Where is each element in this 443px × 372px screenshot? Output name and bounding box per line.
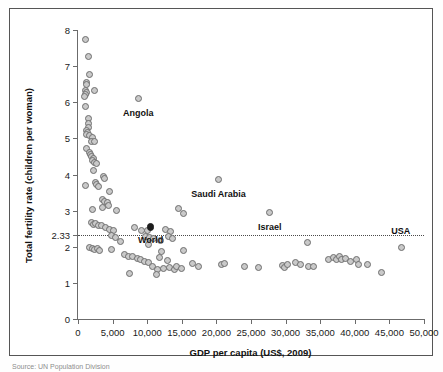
x-axis-tick — [389, 319, 390, 324]
data-point — [85, 53, 92, 60]
data-point — [93, 160, 100, 167]
data-point — [215, 176, 222, 183]
annotation-angola: Angola — [123, 108, 154, 118]
data-point — [91, 138, 98, 145]
x-axis-tick — [78, 319, 79, 324]
y-axis-tick — [73, 247, 78, 248]
source-note: Source: UN Population Division — [12, 362, 312, 371]
y-axis-tick — [73, 138, 78, 139]
data-point — [81, 93, 88, 100]
x-axis-title: GDP per capita (US$, 2009) — [77, 347, 424, 358]
data-point — [221, 260, 228, 267]
y-axis-tick-label: 7 — [65, 61, 70, 72]
data-point — [101, 175, 108, 182]
x-axis-tick — [216, 319, 217, 324]
data-point — [113, 207, 120, 214]
data-point — [304, 239, 311, 246]
data-point — [195, 263, 202, 270]
annotation-israel: Israel — [258, 222, 282, 232]
data-point — [90, 167, 97, 174]
data-point — [297, 261, 304, 268]
data-point — [89, 206, 96, 213]
y-axis-title-text: Total fertility rate (children per woman… — [24, 87, 35, 262]
data-point — [106, 188, 113, 195]
data-point — [86, 71, 93, 78]
data-point — [266, 209, 273, 216]
data-point — [378, 269, 385, 276]
x-axis-tick — [424, 319, 425, 324]
data-point — [135, 95, 142, 102]
x-axis-tick-label: 10,000 — [133, 327, 162, 338]
data-point — [95, 183, 102, 190]
x-axis-tick-label: 20,000 — [202, 327, 231, 338]
x-axis-tick-label: 15,000 — [167, 327, 196, 338]
x-axis-tick-label: 50,000 — [409, 327, 438, 338]
y-axis-tick — [73, 283, 78, 284]
y-axis-tick — [73, 175, 78, 176]
data-point — [255, 264, 262, 271]
annotation-world: World — [138, 235, 163, 245]
annotation-saudi-arabia: Saudi Arabia — [191, 189, 246, 199]
data-point — [82, 182, 89, 189]
data-point — [310, 263, 317, 270]
y-axis-tick — [73, 235, 78, 236]
y-axis-tick — [73, 66, 78, 67]
y-axis-tick-label: 3 — [65, 205, 70, 216]
data-point — [164, 257, 171, 264]
data-point — [99, 204, 106, 211]
y-axis-tick-label: 1 — [65, 277, 70, 288]
x-axis-tick — [355, 319, 356, 324]
x-axis-tick — [251, 319, 252, 324]
y-axis-tick — [73, 30, 78, 31]
figure-page: Total fertility rate (children per woman… — [0, 0, 443, 372]
x-axis-tick — [320, 319, 321, 324]
data-point — [96, 247, 103, 254]
data-point — [398, 244, 405, 251]
data-point — [355, 261, 362, 268]
figure-frame: Total fertility rate (children per woman… — [9, 8, 433, 356]
y-axis-tick — [73, 211, 78, 212]
y-axis-tick-label: 8 — [65, 25, 70, 36]
y-axis-tick-label: 2.33 — [52, 229, 71, 240]
data-point — [126, 270, 133, 277]
y-axis-tick-label: 2 — [65, 241, 70, 252]
x-axis-tick-label: 25,000 — [236, 327, 265, 338]
data-point — [82, 103, 89, 110]
y-axis-title: Total fertility rate (children per woman… — [22, 30, 36, 320]
data-point — [284, 261, 291, 268]
data-point — [364, 261, 371, 268]
data-point — [117, 238, 124, 245]
x-axis-tick-label: 0 — [75, 327, 80, 338]
data-point — [241, 263, 248, 270]
x-axis-tick — [113, 319, 114, 324]
data-point — [180, 210, 187, 217]
x-axis-tick-label: 35,000 — [306, 327, 335, 338]
plot-area: AngolaSaudi ArabiaIsraelWorldUSA 0122.33… — [77, 30, 424, 320]
x-axis-tick-label: 45,000 — [375, 327, 404, 338]
x-axis-tick-label: 30,000 — [271, 327, 300, 338]
y-axis-tick-label: 4 — [65, 169, 70, 180]
y-axis-tick-label: 5 — [65, 133, 70, 144]
x-axis-tick-label: 5,000 — [101, 327, 125, 338]
x-axis-tick — [286, 319, 287, 324]
data-point — [108, 246, 115, 253]
y-axis-tick — [73, 102, 78, 103]
data-point — [178, 265, 185, 272]
data-point — [91, 87, 98, 94]
y-axis-tick-label: 6 — [65, 97, 70, 108]
x-axis-tick — [147, 319, 148, 324]
data-point — [180, 247, 187, 254]
y-axis-tick-label: 0 — [65, 314, 70, 325]
x-axis-tick-label: 40,000 — [340, 327, 369, 338]
data-point-world — [147, 223, 155, 231]
x-axis-tick — [182, 319, 183, 324]
reference-line-2-33 — [78, 235, 424, 236]
data-point — [156, 254, 163, 261]
data-point — [169, 235, 176, 242]
data-point — [153, 271, 160, 278]
annotation-usa: USA — [391, 226, 410, 236]
scatter-plot-canvas: AngolaSaudi ArabiaIsraelWorldUSA — [78, 30, 424, 319]
data-point — [82, 36, 89, 43]
